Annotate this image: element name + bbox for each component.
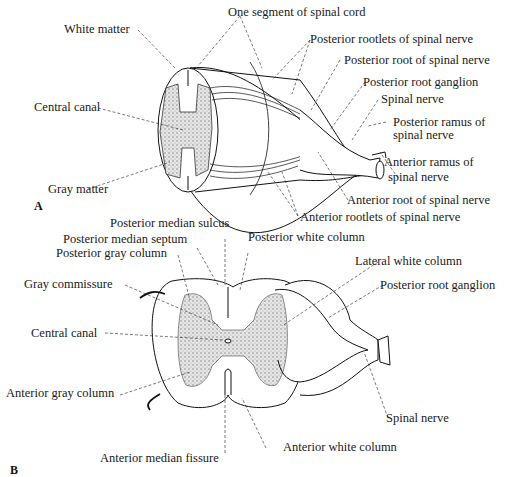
label-anterior-rootlets: Anterior rootlets of spinal nerve — [300, 210, 460, 224]
panel-b-drawing — [140, 279, 390, 410]
label-anterior-root: Anterior root of spinal nerve — [347, 193, 490, 207]
label-white-matter: White matter — [64, 22, 130, 36]
label-central-canal-b: Central canal — [31, 326, 97, 340]
panel-letter-b: B — [10, 463, 18, 477]
label-posterior-ramus-line1: Posterior ramus of — [393, 115, 485, 129]
panel-a-drawing — [158, 62, 386, 233]
label-anterior-white-column: Anterior white column — [283, 440, 397, 454]
label-anterior-median-fissure: Anterior median fissure — [100, 451, 219, 465]
label-anterior-gray-column: Anterior gray column — [6, 386, 114, 400]
label-posterior-rootlets: Posterior rootlets of spinal nerve — [310, 32, 473, 46]
label-gray-commissure: Gray commissure — [24, 277, 113, 291]
panel-letter-a: A — [34, 199, 43, 214]
label-lateral-white-column: Lateral white column — [355, 254, 462, 268]
label-posterior-median-septum: Posterior median septum — [63, 232, 187, 246]
label-anterior-ramus-line2: spinal nerve — [388, 170, 449, 184]
label-spinal-nerve-b: Spinal nerve — [386, 411, 449, 425]
label-posterior-root-ganglion-b: Posterior root ganglion — [380, 278, 495, 292]
label-posterior-white-column: Posterior white column — [248, 230, 365, 244]
label-posterior-root: Posterior root of spinal nerve — [344, 53, 490, 67]
label-anterior-ramus-line1: Anterior ramus of — [384, 155, 474, 169]
label-central-canal-a: Central canal — [34, 100, 100, 114]
label-posterior-gray-column: Posterior gray column — [56, 246, 167, 260]
label-spinal-nerve-a: Spinal nerve — [381, 92, 444, 106]
label-gray-matter: Gray matter — [48, 182, 108, 196]
label-posterior-ramus-line2: spinal nerve — [393, 128, 454, 142]
label-posterior-median-sulcus: Posterior median sulcus — [110, 216, 229, 230]
label-posterior-root-ganglion-a: Posterior root ganglion — [363, 75, 478, 89]
label-one-segment: One segment of spinal cord — [228, 5, 365, 19]
